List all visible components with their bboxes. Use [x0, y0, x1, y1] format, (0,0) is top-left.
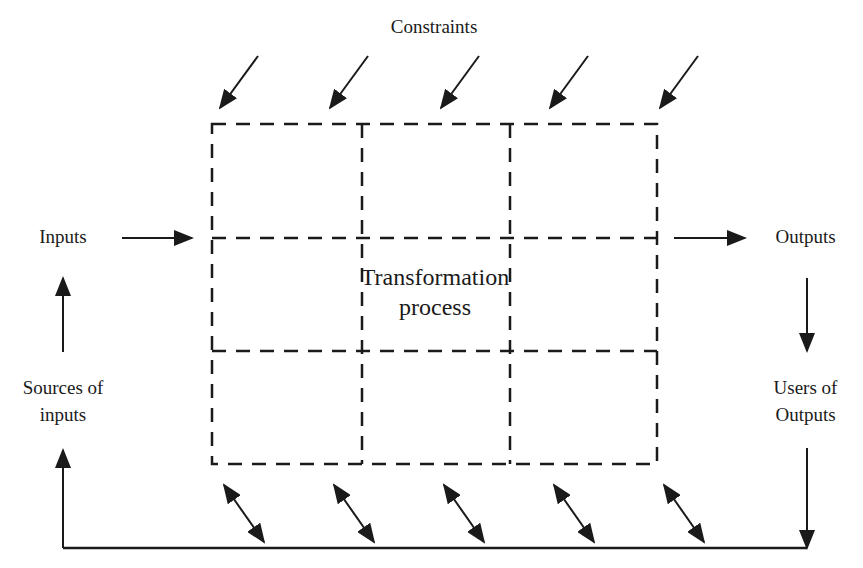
center-line-2: process — [305, 292, 565, 322]
constraint-arrow-5 — [660, 56, 698, 108]
input-transformation-output-diagram: Constraints Inputs Sources of inputs Out… — [0, 0, 863, 568]
bidirectional-arrow-4 — [554, 485, 594, 542]
inputs-label: Inputs — [0, 226, 126, 249]
bidirectional-arrows — [224, 485, 704, 542]
users-line-2: Outputs — [748, 404, 863, 427]
constraint-arrows — [220, 56, 698, 108]
bidirectional-arrow-3 — [444, 485, 484, 542]
bidirectional-arrow-5 — [664, 485, 704, 542]
transformation-process-label: Transformation process — [305, 262, 565, 322]
outputs-label: Outputs — [748, 226, 863, 249]
sources-line-1: Sources of — [0, 377, 126, 400]
bidirectional-arrow-2 — [334, 485, 374, 542]
constraint-arrow-1 — [220, 56, 258, 108]
sources-line-2: inputs — [0, 404, 126, 427]
users-of-outputs-label: Users of Outputs — [748, 377, 863, 427]
constraint-arrow-2 — [330, 56, 368, 108]
center-line-1: Transformation — [305, 262, 565, 292]
constraints-label: Constraints — [334, 16, 534, 39]
constraint-arrow-3 — [441, 56, 479, 108]
sources-of-inputs-label: Sources of inputs — [0, 377, 126, 427]
bidirectional-arrow-1 — [224, 485, 264, 542]
constraint-arrow-4 — [550, 56, 588, 108]
users-line-1: Users of — [748, 377, 863, 400]
